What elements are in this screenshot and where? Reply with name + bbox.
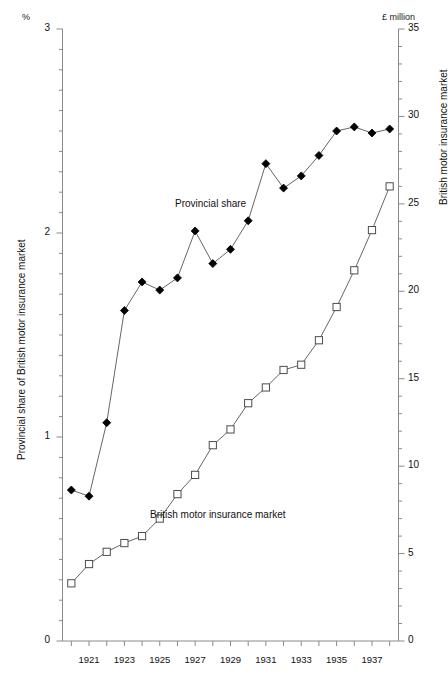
- data-point-diamond: [386, 125, 394, 133]
- right-axis-tick-label: 15: [408, 372, 419, 383]
- data-point-diamond: [156, 286, 164, 294]
- data-point-square: [192, 471, 199, 478]
- left-axis-tick-label: 0: [20, 634, 50, 645]
- right-axis-title: British motor insurance market: [438, 69, 448, 205]
- annotation-provincial-share: Provincial share: [175, 198, 246, 209]
- right-axis-tick-label: 5: [408, 547, 414, 558]
- data-point-diamond: [350, 123, 358, 131]
- left-axis-tick-label: 1: [20, 430, 50, 441]
- data-point-square: [262, 384, 269, 391]
- x-axis-tick-label: 1921: [78, 654, 99, 665]
- data-point-square: [209, 442, 216, 449]
- data-point-square: [245, 400, 252, 407]
- right-axis-tick-label: 0: [408, 634, 414, 645]
- x-axis-tick-label: 1925: [149, 654, 170, 665]
- left-axis-title: Provincial share of British motor insura…: [16, 239, 27, 460]
- plot-canvas: [0, 0, 448, 681]
- data-point-diamond: [262, 160, 270, 168]
- right-axis-tick-label: 10: [408, 459, 419, 470]
- data-point-diamond: [173, 274, 181, 282]
- x-axis-tick-label: 1933: [291, 654, 312, 665]
- data-point-diamond: [120, 307, 128, 315]
- left-axis-tick-label: 2: [20, 226, 50, 237]
- x-axis-tick-label: 1927: [185, 654, 206, 665]
- right-axis-tick-label: 25: [408, 197, 419, 208]
- x-axis-tick-label: 1929: [220, 654, 241, 665]
- x-axis-tick-label: 1937: [361, 654, 382, 665]
- data-point-square: [174, 491, 181, 498]
- chart-figure: % £ million Provincial share of British …: [0, 0, 448, 681]
- data-point-square: [103, 548, 110, 555]
- data-point-square: [121, 539, 128, 546]
- data-point-square: [68, 580, 75, 587]
- data-point-square: [280, 366, 287, 373]
- data-point-diamond: [368, 129, 376, 137]
- x-axis-tick-label: 1931: [255, 654, 276, 665]
- x-axis-tick-label: 1935: [326, 654, 347, 665]
- data-point-square: [368, 226, 375, 233]
- data-point-diamond: [244, 217, 252, 225]
- left-axis-unit-label: %: [22, 12, 30, 22]
- data-point-square: [227, 426, 234, 433]
- data-point-square: [298, 361, 305, 368]
- right-axis-unit-label: £ million: [382, 12, 415, 22]
- data-point-square: [351, 267, 358, 274]
- right-axis-tick-label: 30: [408, 109, 419, 120]
- data-point-square: [138, 532, 145, 539]
- right-axis-tick-label: 20: [408, 284, 419, 295]
- series-line-0: [71, 127, 389, 496]
- data-point-diamond: [85, 492, 93, 500]
- data-point-diamond: [103, 419, 111, 427]
- x-axis-tick-label: 1923: [114, 654, 135, 665]
- right-axis-tick-label: 35: [408, 22, 419, 33]
- data-point-diamond: [67, 486, 75, 494]
- data-point-square: [315, 337, 322, 344]
- data-point-square: [386, 183, 393, 190]
- data-point-diamond: [138, 278, 146, 286]
- data-point-square: [85, 560, 92, 567]
- data-point-diamond: [333, 127, 341, 135]
- data-point-diamond: [280, 184, 288, 192]
- data-point-square: [333, 303, 340, 310]
- data-point-diamond: [191, 227, 199, 235]
- annotation-british-market: British motor insurance market: [150, 509, 286, 520]
- left-axis-tick-label: 3: [20, 22, 50, 33]
